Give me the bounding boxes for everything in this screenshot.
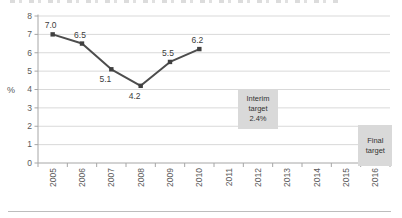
x-tick-label: 2013 [282,168,292,187]
data-point-marker [138,84,142,88]
x-tick-label: 2008 [136,168,146,187]
x-tick-label: 2005 [48,168,58,187]
x-tick-label: 2014 [312,168,322,187]
x-tick-label: 2006 [77,168,87,187]
interim-target-text-line: target [248,104,267,114]
x-tick-label: 2012 [253,168,263,187]
y-tick-label: 7 [27,29,32,39]
final-target-text-line: Final [367,136,383,146]
chart-container: % 01234567820052006200720082009201020112… [0,0,402,218]
y-tick-label: 0 [27,158,32,168]
data-point-label: 7.0 [45,20,57,30]
data-point-marker [168,60,172,64]
data-point-marker [80,41,84,45]
y-tick-label: 2 [27,121,32,131]
y-tick-label: 5 [27,66,32,76]
x-tick-label: 2015 [341,168,351,187]
interim-target-box: Interim target 2.4% [238,89,278,130]
y-tick-label: 6 [27,48,32,58]
y-tick-label: 1 [27,139,32,149]
y-tick-label: 8 [27,11,32,21]
data-point-label: 6.5 [74,30,86,40]
x-tick-label: 2016 [370,168,380,187]
bottom-divider [8,211,391,212]
data-point-label: 6.2 [191,35,203,45]
final-target-text-line: target [366,146,385,156]
data-line [53,34,200,85]
data-point-marker [50,32,54,36]
data-point-label: 5.1 [99,74,111,84]
y-tick-label: 4 [27,84,32,94]
data-point-marker [197,47,201,51]
x-tick-label: 2010 [194,168,204,187]
interim-target-text-line: Interim [247,94,270,104]
data-point-marker [109,67,113,71]
data-point-label: 4.2 [129,91,141,101]
x-tick-label: 2011 [224,168,234,187]
final-target-box: Final target [358,125,392,166]
x-tick-label: 2009 [165,168,175,187]
data-point-label: 5.5 [162,48,174,58]
y-tick-label: 3 [27,103,32,113]
chart-plot: 0123456782005200620072008200920102011201… [0,0,402,218]
interim-target-text-line: 2.4% [249,114,266,124]
x-tick-label: 2007 [106,168,116,187]
